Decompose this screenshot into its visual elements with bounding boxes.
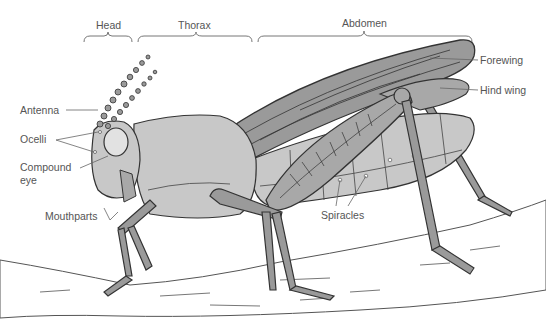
region-label-thorax: Thorax (178, 19, 211, 31)
region-braces (84, 31, 472, 42)
label-hind-wing: Hind wing (480, 84, 526, 96)
label-antenna: Antenna (20, 104, 59, 116)
label-compound-eye-line2: eye (20, 174, 37, 186)
label-spiracles: Spiracles (321, 209, 364, 221)
label-compound-eye-line1: Compound (20, 161, 71, 173)
grasshopper-diagram: Head Thorax Abdomen Antenna Ocelli Compo… (0, 0, 546, 332)
head (92, 121, 140, 202)
region-label-head: Head (96, 19, 121, 31)
antennae (97, 55, 157, 129)
label-ocelli: Ocelli (20, 133, 46, 145)
label-forewing: Forewing (480, 54, 523, 66)
grasshopper-illustration (0, 0, 546, 332)
compound-eye (104, 128, 128, 156)
region-label-abdomen: Abdomen (342, 17, 387, 29)
label-mouthparts: Mouthparts (45, 210, 98, 222)
